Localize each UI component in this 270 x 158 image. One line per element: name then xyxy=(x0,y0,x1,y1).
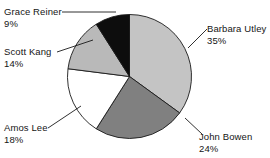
slice-label-scott-kang: Scott Kang 14% xyxy=(4,46,51,69)
slice-label-percent: 35% xyxy=(207,35,266,47)
slice-label-percent: 14% xyxy=(4,58,51,70)
slice-label-percent: 18% xyxy=(4,134,48,146)
slice-label-john-bowen: John Bowen 24% xyxy=(199,131,252,154)
slice-label-barbara-utley: Barbara Utley 35% xyxy=(207,23,266,46)
slice-label-name: Scott Kang xyxy=(4,46,51,58)
slice-label-name: Amos Lee xyxy=(4,122,48,134)
slice-label-name: John Bowen xyxy=(199,131,252,143)
slice-label-name: Grace Reiner xyxy=(4,6,62,18)
pie-chart: Grace Reiner 9% Scott Kang 14% Amos Lee … xyxy=(0,0,270,158)
pie-slices xyxy=(68,15,192,139)
slice-label-percent: 24% xyxy=(199,143,252,155)
slice-label-percent: 9% xyxy=(4,18,62,30)
slice-label-grace-reiner: Grace Reiner 9% xyxy=(4,6,62,29)
slice-label-amos-lee: Amos Lee 18% xyxy=(4,122,48,145)
slice-label-name: Barbara Utley xyxy=(207,23,266,35)
